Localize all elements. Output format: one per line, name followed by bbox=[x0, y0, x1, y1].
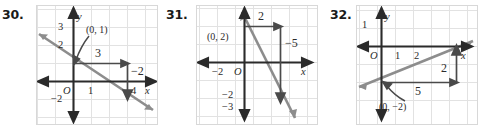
axes-31 bbox=[198, 8, 312, 120]
y-axis-name-30: y bbox=[77, 12, 82, 23]
y-axis-name-32: y bbox=[385, 12, 390, 23]
x-tick-4-30: 4 bbox=[131, 86, 136, 97]
x-tick-2-32: 2 bbox=[414, 51, 419, 62]
rise-label-30: −2 bbox=[131, 65, 144, 77]
x-tick-1-32: 1 bbox=[395, 51, 400, 62]
problem-number-31: 31. bbox=[166, 7, 188, 22]
point-label-32: (0, −2) bbox=[379, 102, 406, 112]
grid-lines-32 bbox=[357, 6, 477, 124]
y-tick-3-30: 3 bbox=[58, 22, 63, 33]
coordinate-plane-31: (0, 2) −2 O x −2 −3 2 −5 bbox=[196, 5, 318, 125]
rise-label-32: 2 bbox=[441, 62, 447, 74]
figure-panel-31: 31. bbox=[164, 0, 328, 129]
grid-lines-31 bbox=[197, 6, 317, 124]
run-label-31: 2 bbox=[258, 10, 264, 22]
origin-label-31: O bbox=[234, 67, 242, 78]
point-pointer-arrow-30 bbox=[74, 36, 90, 65]
coordinate-plane-30: 3 2 −2 O 1 4 x y (0, 1) 3 −2 bbox=[36, 5, 158, 125]
rise-label-31: −5 bbox=[285, 37, 298, 49]
problem-number-30: 30. bbox=[2, 7, 24, 22]
x-axis-name-30: x bbox=[145, 86, 150, 97]
y-tick-2-30: 2 bbox=[58, 40, 63, 51]
coordinate-plane-32: 1 O 1 2 x y 5 2 (0, −2) bbox=[356, 5, 478, 125]
x-axis-name-32: x bbox=[461, 51, 466, 62]
run-label-30: 3 bbox=[95, 47, 101, 59]
point-label-30: (0, 1) bbox=[86, 25, 108, 35]
slope-triangle-30 bbox=[74, 60, 132, 100]
x-tick-neg2-31: −2 bbox=[212, 67, 223, 78]
problem-number-32: 32. bbox=[330, 7, 352, 22]
origin-label-30: O bbox=[63, 86, 71, 97]
y-tick-neg3-31: −3 bbox=[222, 102, 233, 113]
point-pointer-arrow-32 bbox=[383, 82, 406, 102]
graphed-line-31 bbox=[240, 12, 297, 118]
run-label-32: 5 bbox=[415, 85, 421, 97]
point-label-31: (0, 2) bbox=[207, 32, 229, 42]
y-tick-1-32: 1 bbox=[362, 20, 367, 31]
origin-label-32: O bbox=[370, 51, 378, 62]
x-tick-1-30: 1 bbox=[88, 86, 93, 97]
y-tick-neg2-31: −2 bbox=[222, 90, 233, 101]
worksheet-figure-row: 30. bbox=[0, 0, 492, 129]
y-tick-neg2-30: −2 bbox=[51, 94, 62, 105]
x-axis-name-31: x bbox=[301, 67, 306, 78]
figure-panel-30: 30. bbox=[0, 0, 164, 129]
figure-panel-32: 32. bbox=[328, 0, 492, 129]
